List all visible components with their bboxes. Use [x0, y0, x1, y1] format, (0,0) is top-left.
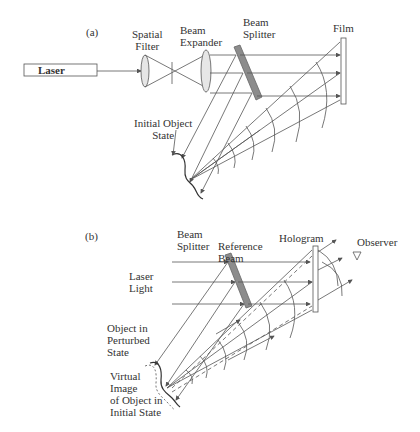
- observer-icon: [353, 252, 361, 260]
- beam-splitter-label-a: Beam Splitter: [243, 16, 275, 40]
- film-label: Film: [333, 22, 354, 34]
- hologram: [313, 246, 318, 312]
- beam-splitter-a: [234, 45, 262, 100]
- beam-splitter-label-b: Beam Splitter: [177, 228, 209, 252]
- laser-light-label: Laser Light: [129, 270, 153, 294]
- spatial-filter-lens: [141, 55, 149, 87]
- initial-object-state-label: Initial Object State: [134, 117, 192, 141]
- panel-b-tag: (b): [85, 230, 98, 242]
- reference-beam-label: Reference Beam: [218, 240, 263, 264]
- object-perturbed-label: Object in Perturbed State: [107, 322, 150, 358]
- beam-expander-lens: [201, 50, 211, 92]
- hologram-label: Hologram: [279, 232, 324, 244]
- laser-label: Laser: [38, 64, 65, 76]
- virtual-image-label: Virtual Image of Object in Initial State: [110, 370, 163, 418]
- spatial-filter-label: Spatial Filter: [132, 28, 163, 52]
- observer-label: Observer: [357, 236, 397, 248]
- object-initial-state: [172, 154, 203, 199]
- panel-b: [145, 240, 361, 410]
- film: [341, 38, 346, 104]
- beam-expander-label: Beam Expander: [180, 24, 222, 48]
- panel-a-tag: (a): [86, 26, 98, 38]
